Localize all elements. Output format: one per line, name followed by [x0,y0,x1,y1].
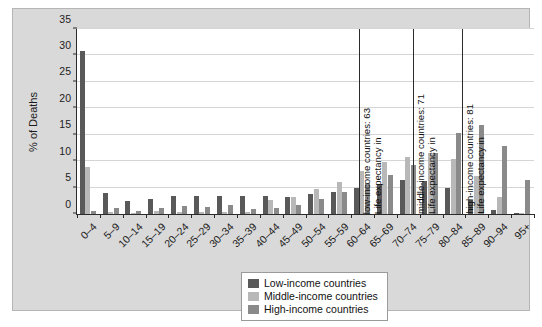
gridline [77,81,534,82]
bar-middle [291,197,296,214]
x-axis-tick-mark [77,214,78,218]
x-axis-tick-label: 15–19 [139,221,167,249]
x-axis-tick-label: 80–84 [436,221,464,249]
plot-area: 05101520253035 0–45–910–1415–1920–2425–2… [76,29,534,215]
plot-inner: 05101520253035 0–45–910–1415–1920–2425–2… [77,29,534,214]
x-axis-tick-label: 10–14 [116,221,144,249]
bar-high [114,208,119,214]
y-axis-tick-mark [73,54,77,55]
bar-low [125,201,130,214]
x-axis-tick-mark [260,214,261,218]
x-axis-tick-label: 75–79 [413,221,441,249]
x-axis-tick-label: 90–94 [482,221,510,249]
x-axis-tick-label: 20–24 [162,221,190,249]
annotation-label-middle-income-life-expectancy: middle-income countries: 71Life expectan… [416,94,437,214]
bar-high [251,209,256,214]
x-axis-tick-mark [191,214,192,218]
y-axis-tick-mark [73,133,77,134]
x-axis-tick-label: 0–4 [79,221,99,241]
bar-high [342,192,347,214]
bar-group [240,29,258,214]
bar-high [319,199,324,214]
bar-low [148,199,153,214]
bar-high [205,207,210,214]
x-axis-tick-mark [214,214,215,218]
x-axis-tick-label: 60–64 [345,221,373,249]
bar-middle [337,182,342,214]
bar-high [502,146,507,214]
bar-high [274,208,279,214]
bar-middle [268,200,273,214]
bar-group [263,29,281,214]
y-axis-tick-mark [73,186,77,187]
bar-middle [154,211,159,214]
bar-low [491,210,496,214]
bar-low [194,196,199,214]
x-axis-tick-mark [534,214,535,218]
x-axis-tick-mark [237,214,238,218]
bar-middle [131,213,136,214]
bar-group [217,29,235,214]
bar-group [171,29,189,214]
bar-low [445,188,450,214]
x-axis-tick-label: 65–69 [368,221,396,249]
annotation-label-high-income-life-expectancy: high-income countries: 81Life expectancy… [465,104,486,214]
legend-label-middle: Middle-income countries [264,291,378,302]
x-axis-tick-label: 25–29 [185,221,213,249]
x-axis-tick-mark [100,214,101,218]
annotation-line-middle-income-life-expectancy: middle-income countries: 71Life expectan… [413,29,414,214]
x-axis-tick-mark [306,214,307,218]
bar-group [331,29,349,214]
bar-high [91,211,96,214]
x-axis-tick-mark [465,214,466,218]
chart-plate: % of Deaths 05101520253035 0–45–910–1415… [12,8,530,311]
chart-figure: % of Deaths 05101520253035 0–45–910–1415… [0,0,542,327]
bar-middle [222,212,227,214]
bar-high [456,133,461,214]
bar-low [80,51,85,214]
bar-group [491,29,509,214]
x-axis-tick-label: 30–34 [208,221,236,249]
bar-high [388,175,393,214]
bar-high [525,180,530,214]
bar-low [240,196,245,214]
bar-group [148,29,166,214]
y-axis-tick-label: 10 [59,145,71,156]
legend-item-high: High-income countries [248,303,378,316]
legend-label-low: Low-income countries [264,278,366,289]
y-axis-tick-label: 15 [59,119,71,130]
x-axis-tick-label: 35–39 [230,221,258,249]
x-axis-tick-label: 85–89 [459,221,487,249]
annotation-line2: low-income countries: 63 [362,108,373,214]
bar-middle [245,212,250,214]
annotation-line-high-income-life-expectancy: high-income countries: 81Life expectancy… [462,29,463,214]
y-axis-tick-label: 35 [59,13,71,24]
bar-middle [108,212,113,214]
bar-middle [314,189,319,214]
bar-high [136,211,141,214]
legend-item-middle: Middle-income countries [248,290,378,303]
x-axis-tick-label: 70–74 [390,221,418,249]
bar-high [159,208,164,214]
bar-middle [451,159,456,215]
x-axis-tick-mark [351,214,352,218]
gridline [77,54,534,55]
x-axis-tick-mark [146,214,147,218]
bar-middle [199,212,204,214]
bar-low [331,192,336,214]
x-axis-tick-label: 45–49 [276,221,304,249]
y-axis-tick-mark [73,107,77,108]
x-axis-tick-mark [488,214,489,218]
bar-group [514,29,532,214]
bar-high [228,205,233,214]
bar-group [194,29,212,214]
bar-middle [519,213,524,214]
gridline [77,28,534,29]
bar-middle [497,197,502,214]
bar-low [103,193,108,214]
annotation-line1: Life expectancy in [476,104,487,214]
bar-low [285,197,290,214]
bar-group [103,29,121,214]
bar-middle [177,212,182,214]
bar-low [514,213,519,214]
